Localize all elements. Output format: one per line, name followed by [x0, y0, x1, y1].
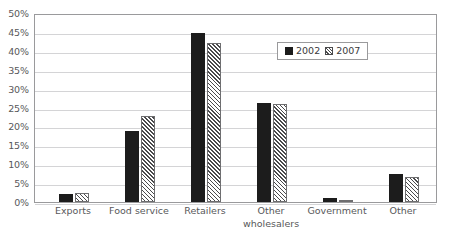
bar-2007-other-wholesalers: [273, 104, 287, 202]
y-axis-tick: 0%: [14, 198, 29, 208]
bar-2002-exports: [59, 194, 73, 202]
y-axis-tick: 10%: [8, 160, 29, 170]
legend-label: 2002: [296, 46, 320, 56]
plot-area: [34, 14, 437, 203]
y-axis: 50% 45% 40% 35% 30% 25% 20% 15% 10% 5% 0…: [0, 0, 34, 242]
y-axis-tick: 45%: [8, 28, 29, 38]
legend-swatch-icon: [325, 47, 333, 55]
bar-group-food-service: [125, 15, 155, 202]
x-axis-label-line: Other: [258, 205, 285, 216]
x-axis-label-government: Government: [307, 205, 366, 218]
bar-2007-food-service: [141, 116, 155, 202]
bar-group-exports: [59, 15, 89, 202]
y-axis-tick: 40%: [8, 47, 29, 57]
bar-2002-other: [389, 174, 403, 202]
y-axis-tick: 30%: [8, 85, 29, 95]
legend-label: 2007: [336, 46, 360, 56]
bar-2002-government: [323, 198, 337, 202]
bar-2007-government: [339, 200, 353, 202]
x-axis-label-other-wholesalers: Other wholesalers: [243, 205, 299, 230]
y-axis-tick: 35%: [8, 66, 29, 76]
x-axis-label-food-service: Food service: [109, 205, 169, 218]
y-axis-tick: 50%: [8, 9, 29, 19]
x-axis-label-other: Other: [390, 205, 417, 218]
x-axis-label-line: Retailers: [184, 205, 226, 216]
bar-2002-other-wholesalers: [257, 103, 271, 202]
y-axis-tick: 20%: [8, 123, 29, 133]
x-axis-label-retailers: Retailers: [184, 205, 226, 218]
legend: 2002 2007: [277, 42, 368, 60]
bar-group-retailers: [191, 15, 221, 202]
x-axis-label-line: Government: [307, 205, 366, 216]
y-axis-tick: 25%: [8, 104, 29, 114]
bar-2007-exports: [75, 193, 89, 202]
y-axis-tick: 15%: [8, 142, 29, 152]
legend-entry-2007: 2007: [325, 46, 360, 56]
legend-entry-2002: 2002: [285, 46, 320, 56]
bar-2007-retailers: [207, 43, 221, 202]
legend-swatch-icon: [285, 47, 293, 55]
y-axis-tick: 5%: [14, 179, 29, 189]
bar-2007-other: [405, 177, 419, 202]
bar-group-other: [389, 15, 419, 202]
x-axis-label-line: Other: [390, 205, 417, 216]
bar-2002-food-service: [125, 131, 139, 202]
x-axis-label-line: wholesalers: [243, 218, 299, 231]
x-axis: Exports Food service Retailers Other who…: [34, 205, 437, 242]
bar-2002-retailers: [191, 33, 205, 202]
x-axis-label-exports: Exports: [55, 205, 91, 218]
x-axis-label-line: Exports: [55, 205, 91, 216]
bars-layer: [35, 15, 436, 202]
x-axis-label-line: Food service: [109, 205, 169, 216]
bar-chart: 50% 45% 40% 35% 30% 25% 20% 15% 10% 5% 0…: [0, 0, 451, 242]
